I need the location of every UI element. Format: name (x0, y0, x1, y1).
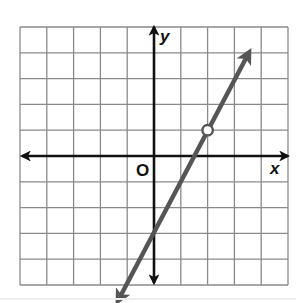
open-circle-point (202, 125, 212, 135)
origin-label: O (136, 161, 149, 180)
x-axis-label: x (269, 159, 281, 178)
y-axis-label: y (159, 27, 171, 46)
axes (22, 27, 288, 283)
bottom-divider (0, 298, 296, 300)
coordinate-plane: x y O (0, 0, 296, 303)
